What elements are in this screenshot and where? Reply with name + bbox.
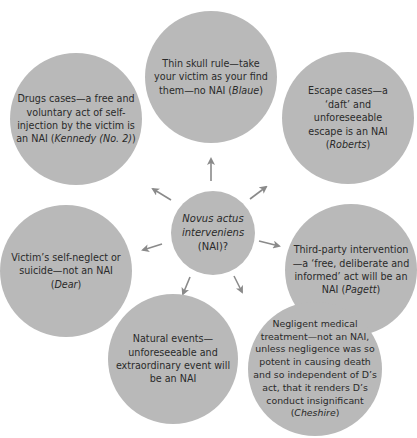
case-name: Roberts — [329, 139, 366, 150]
arrow-right-icon — [259, 241, 279, 246]
case-name: Blaue — [232, 85, 259, 96]
arrow-left-icon — [143, 244, 162, 250]
node-suffix: ) — [376, 284, 380, 295]
node-suffix: ) — [132, 133, 136, 144]
case-name: Kennedy (No. 2) — [55, 133, 132, 144]
node-text: Negligent medical treatment—not an NAI, … — [248, 318, 382, 420]
case-name: Cheshire — [294, 407, 335, 418]
node-suffix: ) — [78, 279, 82, 290]
node-body: Negligent medical treatment—not an NAI, … — [253, 318, 377, 419]
node-drugs-cases: Drugs cases—a free and voluntary act of … — [10, 53, 142, 185]
arrow-up-left-icon — [153, 189, 171, 200]
node-thin-skull-rule: Thin skull rule—take your victim as your… — [145, 11, 277, 143]
center-line-3: (NAI)? — [198, 241, 228, 252]
case-name: Dear — [54, 279, 77, 290]
arrow-down-right-icon — [234, 276, 242, 292]
node-suffix: ) — [259, 85, 263, 96]
node-text: Third-party intervention—a ‘free, delibe… — [285, 243, 417, 297]
case-name: Pagett — [345, 284, 376, 295]
node-victim-self-neglect: Victim’s self-neglect or suicide—not an … — [0, 205, 132, 337]
central-question-text: Novus actus interveniens (NAI)? — [182, 212, 244, 254]
node-text: Escape cases—a ‘daft’ and unforeseeable … — [282, 84, 414, 151]
node-suffix: ) — [367, 139, 371, 150]
arrow-up-right-icon — [250, 187, 266, 199]
node-text: Drugs cases—a free and voluntary act of … — [10, 92, 142, 146]
node-body: Natural events—unforeseeable and extraor… — [116, 333, 230, 384]
central-question-node: Novus actus interveniens (NAI)? — [171, 191, 255, 275]
node-text: Natural events—unforeseeable and extraor… — [108, 332, 238, 386]
node-natural-events: Natural events—unforeseeable and extraor… — [108, 294, 238, 424]
node-text: Thin skull rule—take your victim as your… — [145, 57, 277, 97]
node-escape-cases: Escape cases—a ‘daft’ and unforeseeable … — [282, 52, 414, 184]
center-line-2: interveniens — [182, 227, 244, 238]
node-suffix: ) — [336, 407, 340, 418]
center-line-1: Novus actus — [182, 213, 243, 224]
node-negligent-medical-treatment: Negligent medical treatment—not an NAI, … — [248, 302, 382, 436]
arrow-down-left-icon — [183, 277, 190, 294]
node-text: Victim’s self-neglect or suicide—not an … — [0, 251, 132, 291]
